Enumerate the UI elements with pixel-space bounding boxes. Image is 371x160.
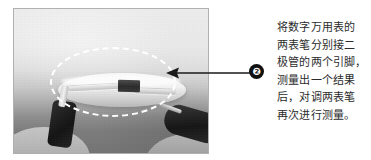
caption-line-4: 测量出一个结果 [277,72,365,90]
caption-line-1: 将数字万用表的 [277,19,365,37]
instruction-photo [13,8,209,154]
caption-line-5: 后，对调两表笔 [277,89,365,107]
caption-line-3: 极管的两个引脚， [277,54,365,72]
caption-block: 将数字万用表的 两表笔分别接二 极管的两个引脚， 测量出一个结果 后，对调两表笔… [277,19,365,124]
callout-badge-2: ❷ [249,64,264,79]
highlight-ellipse [50,47,176,117]
caption-line-2: 两表笔分别接二 [277,37,365,55]
caption-line-6: 再次进行测量。 [277,107,365,125]
